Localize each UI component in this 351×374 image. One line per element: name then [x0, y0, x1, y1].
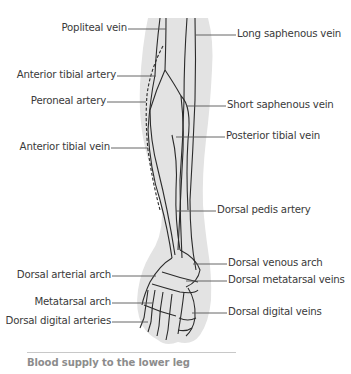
label-popliteal-vein: Popliteal vein — [62, 22, 128, 34]
label-dorsal-digital-arteries: Dorsal digital arteries — [6, 315, 111, 327]
label-anterior-tibial-artery: Anterior tibial artery — [17, 69, 116, 81]
label-dorsal-digital-veins: Dorsal digital veins — [228, 306, 322, 318]
label-dorsal-metatarsal-veins: Dorsal metatarsal veins — [228, 274, 345, 286]
lower-leg-diagram: Popliteal vein Anterior tibial artery Pe… — [0, 0, 351, 374]
caption-divider — [27, 352, 236, 353]
figure-caption: Blood supply to the lower leg — [27, 357, 190, 368]
label-long-saphenous-vein: Long saphenous vein — [237, 28, 341, 40]
label-peroneal-artery: Peroneal artery — [31, 95, 106, 107]
label-short-saphenous-vein: Short saphenous vein — [227, 99, 334, 111]
leg-silhouette — [137, 18, 212, 344]
label-dorsal-pedis-artery: Dorsal pedis artery — [217, 204, 311, 216]
label-dorsal-arterial-arch: Dorsal arterial arch — [17, 269, 111, 281]
label-posterior-tibial-vein: Posterior tibial vein — [226, 130, 320, 142]
label-anterior-tibial-vein: Anterior tibial vein — [20, 141, 110, 153]
label-dorsal-venous-arch: Dorsal venous arch — [228, 257, 323, 269]
label-metatarsal-arch: Metatarsal arch — [34, 296, 111, 308]
